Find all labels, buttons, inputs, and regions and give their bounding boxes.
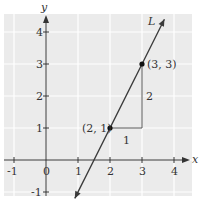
run-label: 1 [123, 134, 130, 147]
y-tick-label: 2 [36, 90, 43, 103]
point-label-2-1: (2, 1) [82, 122, 112, 135]
y-tick-label: 3 [36, 58, 43, 71]
y-axis-label: y [40, 1, 48, 14]
x-tick-label: -1 [7, 165, 18, 178]
x-tick-label: 4 [171, 165, 178, 178]
y-tick-label: 1 [36, 122, 43, 135]
point-label-3-3: (3, 3) [147, 58, 177, 71]
y-tick-label: -1 [31, 186, 42, 199]
x-tick-label: 3 [139, 165, 146, 178]
coordinate-plane: -101234-11234 x y (2, 1) (3, 3) 1 2 L [0, 0, 199, 207]
x-axis-label: x [192, 153, 199, 166]
x-tick-label: 1 [75, 165, 82, 178]
x-tick-label: 0 [43, 165, 50, 178]
grid-background [4, 14, 192, 196]
line-label: L [147, 15, 155, 28]
y-tick-label: 4 [36, 26, 43, 39]
rise-label: 2 [146, 90, 153, 103]
x-tick-label: 2 [107, 165, 114, 178]
point-3-3 [139, 61, 144, 66]
